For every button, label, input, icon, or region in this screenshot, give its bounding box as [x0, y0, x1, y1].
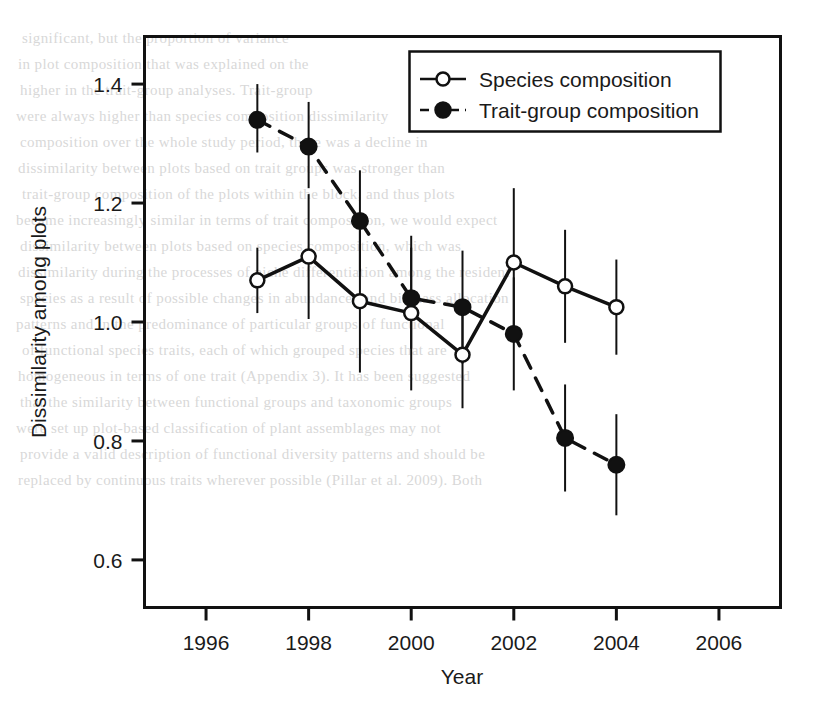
y-tick-label: 0.6: [93, 549, 122, 572]
figure-page: significant, but the proportion of varia…: [0, 0, 817, 701]
data-point: [456, 348, 470, 362]
data-point: [506, 326, 522, 342]
data-point: [507, 256, 521, 270]
data-point: [352, 213, 368, 229]
x-tick-label: 2006: [696, 631, 743, 654]
y-tick-label: 1.2: [93, 192, 122, 215]
filled-circle-icon: [436, 103, 451, 118]
open-circle-icon: [437, 73, 450, 86]
x-tick-label: 1998: [285, 631, 332, 654]
data-series: [249, 112, 624, 473]
data-point: [403, 290, 419, 306]
data-point: [301, 139, 317, 155]
y-tick-label: 1.4: [93, 73, 123, 96]
data-point: [608, 457, 624, 473]
x-axis-title: Year: [441, 665, 483, 688]
data-point: [250, 273, 264, 287]
y-tick-label: 1.0: [93, 311, 122, 334]
data-point: [609, 300, 623, 314]
data-point: [558, 279, 572, 293]
legend: Species composition Trait-group composit…: [410, 52, 721, 132]
data-point: [557, 430, 573, 446]
data-point: [353, 294, 367, 308]
data-point: [455, 299, 471, 315]
data-point: [404, 306, 418, 320]
series-line: [257, 257, 616, 355]
dissimilarity-line-chart: 0.60.81.01.21.4 199619982000200220042006…: [0, 0, 817, 701]
data-point: [302, 250, 316, 264]
y-tick-label: 0.8: [93, 430, 122, 453]
x-tick-label: 2000: [388, 631, 435, 654]
legend-label-species: Species composition: [479, 68, 672, 91]
x-axis: 199619982000200220042006: [183, 608, 743, 654]
y-axis: 0.60.81.01.21.4: [93, 73, 144, 572]
y-axis-title: Dissimilarity among plots: [27, 206, 50, 438]
legend-label-trait-group: Trait-group composition: [479, 99, 699, 122]
x-tick-label: 2004: [593, 631, 640, 654]
x-tick-label: 1996: [183, 631, 230, 654]
data-point: [249, 112, 265, 128]
x-tick-label: 2002: [490, 631, 537, 654]
